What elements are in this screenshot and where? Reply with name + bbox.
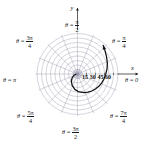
center-origin-marker	[73, 69, 83, 79]
angle-fraction: 3π2	[72, 126, 79, 140]
radial-tick-label: 15	[82, 74, 88, 80]
fraction-denominator: 4	[120, 117, 127, 124]
radial-tick-label: 45	[97, 74, 103, 80]
angle-label-text: θ = 0	[125, 76, 138, 83]
theta-pi-over-2-label: θ = π2	[65, 19, 79, 33]
angle-fraction: π2	[75, 19, 79, 33]
angle-label-text: θ =	[65, 21, 73, 28]
angle-label-text: θ =	[62, 128, 70, 135]
angle-label-text: θ =	[17, 112, 25, 119]
y-axis-arrow	[76, 8, 79, 10]
theta-5pi-over-4-label: θ = 5π4	[17, 110, 34, 124]
theta-7pi-over-4-label: θ = 7π4	[110, 110, 127, 124]
polar-plot-figure: y x 15304560 θ = π2θ = π4θ = 0θ = 7π4θ =…	[0, 0, 154, 148]
grid-ray	[48, 74, 78, 104]
x-axis-label: x	[131, 65, 134, 72]
angle-label-text: θ =	[16, 37, 24, 44]
angle-fraction: 7π4	[120, 110, 127, 124]
angle-fraction: π4	[122, 35, 126, 49]
grid-ray	[78, 44, 108, 74]
angle-label-text: θ = π	[3, 76, 16, 83]
angle-fraction: 3π4	[26, 35, 33, 49]
fraction-denominator: 2	[75, 26, 79, 33]
theta-zero-label: θ = 0	[125, 77, 138, 83]
radial-tick-label: 30	[90, 74, 96, 80]
fraction-denominator: 4	[26, 42, 33, 49]
fraction-denominator: 4	[27, 117, 34, 124]
theta-3pi-over-4-label: θ = 3π4	[16, 35, 33, 49]
theta-pi-over-4-label: θ = π4	[112, 35, 126, 49]
theta-3pi-over-2-label: θ = 3π2	[62, 126, 79, 140]
radial-tick-label: 60	[105, 74, 111, 80]
y-axis-label: y	[71, 5, 74, 12]
angle-label-text: θ =	[112, 37, 120, 44]
grid-ray	[48, 44, 78, 74]
radial-tick-labels: 15304560	[82, 74, 111, 80]
angle-fraction: 5π4	[27, 110, 34, 124]
fraction-denominator: 2	[72, 133, 79, 140]
fraction-denominator: 4	[122, 42, 126, 49]
angle-label-text: θ =	[110, 112, 118, 119]
theta-pi-label: θ = π	[3, 77, 16, 83]
